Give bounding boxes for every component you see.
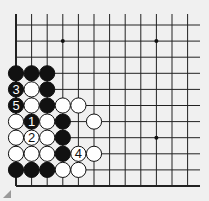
white-stone-icon [40, 146, 55, 161]
black-stone-icon [40, 66, 55, 81]
white-stone-icon [24, 146, 39, 161]
move-number-label: 1 [28, 114, 35, 129]
white-stone-icon [24, 98, 39, 113]
white-stone-icon [8, 114, 23, 129]
star-point-icon [154, 136, 158, 140]
white-stone-icon [8, 146, 23, 161]
star-point-icon [154, 39, 158, 43]
black-stone-icon [40, 82, 55, 97]
go-board: 35124 [0, 0, 209, 201]
white-stone-icon [40, 130, 55, 145]
black-stone-icon [8, 66, 23, 81]
move-number-label: 3 [12, 82, 19, 97]
white-stone-icon [71, 162, 86, 177]
white-stone-icon [86, 146, 101, 161]
move-number-label: 4 [75, 146, 82, 161]
white-stone-icon [71, 98, 86, 113]
black-stone-icon [40, 98, 55, 113]
white-stone-icon [40, 114, 55, 129]
black-stone-icon [55, 130, 70, 145]
white-stone-icon [55, 98, 70, 113]
star-point-icon [61, 39, 65, 43]
white-stone-icon [24, 82, 39, 97]
move-number-label: 5 [12, 98, 19, 113]
black-stone-icon [40, 162, 55, 177]
black-stone-icon [55, 114, 70, 129]
white-stone-icon [8, 130, 23, 145]
move-number-label: 2 [28, 130, 35, 145]
black-stone-icon [24, 66, 39, 81]
black-stone-icon [24, 162, 39, 177]
white-stone-icon [86, 114, 101, 129]
black-stone-icon [55, 146, 70, 161]
black-stone-icon [8, 162, 23, 177]
white-stone-icon [55, 162, 70, 177]
corner-mark-icon [3, 190, 11, 198]
